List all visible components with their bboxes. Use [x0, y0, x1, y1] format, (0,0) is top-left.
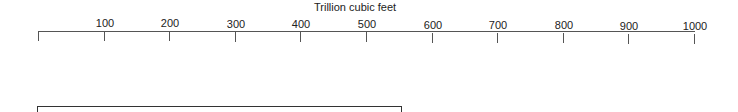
- x-axis-tick-label: 100: [96, 17, 114, 29]
- x-axis-tick-label: 1000: [683, 20, 707, 32]
- x-axis-tick: [694, 34, 695, 44]
- x-axis-tick-label: 800: [555, 19, 573, 31]
- x-axis-tick: [169, 31, 170, 41]
- x-axis-tick-label: 600: [424, 19, 442, 31]
- chart: Trillion cubic feet 10020030040050060070…: [0, 0, 738, 112]
- x-axis-tick: [300, 32, 301, 42]
- x-axis-tick: [628, 34, 629, 44]
- x-axis-tick: [432, 33, 433, 43]
- x-axis-tick-label: 400: [292, 18, 310, 30]
- axis-title: Trillion cubic feet: [314, 1, 396, 13]
- x-axis-tick-label: 200: [161, 17, 179, 29]
- x-axis-tick: [497, 33, 498, 43]
- x-axis-tick: [104, 31, 105, 41]
- x-axis-tick: [235, 32, 236, 42]
- x-axis-tick-label: 700: [489, 19, 507, 31]
- x-axis-tick-label: 300: [227, 18, 245, 30]
- x-axis-tick-label: 500: [358, 18, 376, 30]
- x-axis-tick-label: 900: [620, 20, 638, 32]
- x-axis-tick: [366, 32, 367, 42]
- bar: [37, 106, 402, 112]
- x-axis-tick-origin: [38, 31, 39, 41]
- x-axis-tick: [563, 33, 564, 43]
